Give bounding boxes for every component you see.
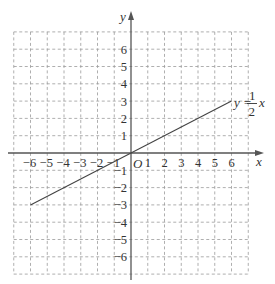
y-tick-label: 3 bbox=[121, 95, 127, 109]
x-axis-label: x bbox=[255, 154, 262, 169]
y-tick-label: −2 bbox=[114, 181, 127, 195]
y-axis-arrow-icon bbox=[128, 11, 134, 20]
x-tick-label: 2 bbox=[161, 156, 167, 170]
x-tick-label: 4 bbox=[195, 156, 202, 170]
x-tick-label: 5 bbox=[212, 156, 218, 170]
x-tick-label: 6 bbox=[228, 156, 234, 170]
y-tick-label: 1 bbox=[121, 129, 127, 143]
y-tick-label: 5 bbox=[121, 60, 127, 74]
y-tick-label: 2 bbox=[121, 112, 127, 126]
x-tick-label: 1 bbox=[145, 156, 151, 170]
x-tick-label: 3 bbox=[178, 156, 184, 170]
y-tick-label: −5 bbox=[114, 233, 127, 247]
coordinate-plane: −6−5−4−3−2−1123456654321−1−2−3−4−5−6 y x… bbox=[0, 0, 275, 284]
y-tick-label: −4 bbox=[114, 216, 128, 230]
equation-numerator: 1 bbox=[249, 88, 256, 103]
x-tick-label: −6 bbox=[23, 156, 36, 170]
x-tick-label: −4 bbox=[56, 156, 70, 170]
y-tick-label: −1 bbox=[114, 164, 127, 178]
y-tick-label: −6 bbox=[114, 250, 127, 264]
y-axis-label: y bbox=[118, 9, 126, 24]
equation-variable: x bbox=[258, 95, 265, 110]
y-tick-label: −3 bbox=[114, 198, 127, 212]
equation-denominator: 2 bbox=[249, 104, 256, 119]
origin-label: O bbox=[133, 156, 143, 171]
x-tick-label: −5 bbox=[40, 156, 53, 170]
y-tick-label: 6 bbox=[121, 43, 127, 57]
x-tick-label: −3 bbox=[73, 156, 86, 170]
equation-label: y = 1 2 x bbox=[232, 88, 265, 119]
y-tick-label: 4 bbox=[121, 77, 128, 91]
